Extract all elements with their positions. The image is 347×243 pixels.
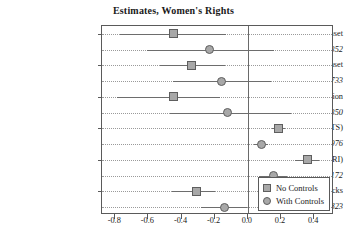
legend-item[interactable]: With Controls [263,194,324,207]
y-axis-tick [98,97,102,98]
chart-title: Estimates, Women's Rights [0,5,347,16]
zero-reference-line [248,26,249,213]
estimate-marker-no-controls[interactable] [303,155,312,164]
plot-area: No ControlsWith Controls [101,25,333,214]
y-axis-tick [98,65,102,66]
legend-circle-icon [263,197,271,205]
estimate-marker-with-controls[interactable] [205,45,214,54]
estimate-marker-no-controls[interactable] [274,124,283,133]
chart-legend[interactable]: No ControlsWith Controls [258,177,330,211]
legend-square-icon [263,184,271,192]
y-axis-tick [98,191,102,192]
estimate-marker-no-controls[interactable] [187,61,196,70]
estimate-marker-no-controls[interactable] [192,187,201,196]
gridline [102,144,332,145]
legend-label: No Controls [276,183,318,193]
estimate-marker-with-controls[interactable] [257,140,266,149]
y-axis-tick [98,128,102,129]
legend-item[interactable]: No Controls [263,181,324,194]
y-axis-tick [98,34,102,35]
estimate-marker-with-controls[interactable] [220,203,229,212]
y-axis-tick [98,160,102,161]
estimate-marker-no-controls[interactable] [169,29,178,38]
estimate-marker-no-controls[interactable] [169,92,178,101]
estimate-marker-with-controls[interactable] [217,77,226,86]
gridline [102,128,332,129]
estimates-forest-plot: Estimates, Women's Rights Civil War Onse… [0,0,347,243]
legend-label: With Controls [276,196,324,206]
x-axis-tick-label: 0.4 [293,216,333,225]
estimate-marker-with-controls[interactable] [223,108,232,117]
